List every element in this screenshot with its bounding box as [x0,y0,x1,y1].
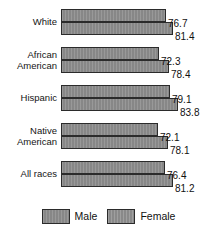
category-label: Hispanic [0,93,57,104]
legend-swatch-female-icon [107,209,135,224]
chart-legend: Male Female [0,204,217,228]
legend-swatch-male-icon [42,209,70,224]
value-label-male: 79.1 [172,93,191,106]
category-label: All races [0,169,57,180]
bar-male [61,85,170,98]
bar-group: All races 76.4 81.2 [0,160,217,188]
bar-female [61,136,168,149]
category-label: African American [0,50,57,71]
bar-male [61,161,165,174]
value-label-male: 72.1 [160,131,179,144]
bar-female [61,98,178,111]
bar-female [61,22,173,35]
legend-label-female: Female [140,210,175,222]
bar-male [61,123,158,136]
bar-group: African American 72.3 78.4 [0,46,217,74]
category-label: White [0,17,57,28]
legend-label-male: Male [75,210,98,222]
bar-group: White 76.7 81.4 [0,8,217,36]
bar-male [61,9,166,22]
value-label-female: 78.1 [170,144,189,157]
value-label-female: 83.8 [180,106,199,119]
bar-male [61,47,159,60]
legend-item-male: Male [42,209,98,224]
bar-female [61,174,173,187]
value-label-female: 81.4 [175,30,194,43]
legend-item-female: Female [107,209,175,224]
bar-group: Native American 72.1 78.1 [0,122,217,150]
category-label: Native American [0,126,57,147]
value-label-male: 72.3 [161,55,180,68]
value-label-female: 78.4 [171,68,190,81]
value-label-female: 81.2 [175,182,194,195]
value-label-male: 76.4 [167,169,186,182]
bar-group: Hispanic 79.1 83.8 [0,84,217,112]
bar-female [61,60,169,73]
value-label-male: 76.7 [168,17,187,30]
bar-chart: White 76.7 81.4 African American 72.3 78… [0,0,217,236]
